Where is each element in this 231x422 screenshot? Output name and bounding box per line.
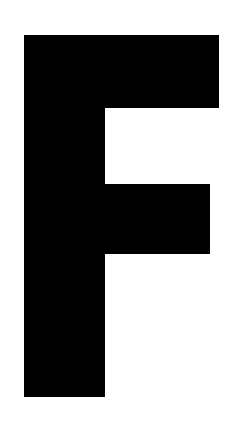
glyph-character: F [0, 0, 1, 1]
f-top-arm [24, 35, 219, 108]
f-middle-arm [24, 184, 210, 254]
letter-f-glyph: F [0, 0, 231, 422]
